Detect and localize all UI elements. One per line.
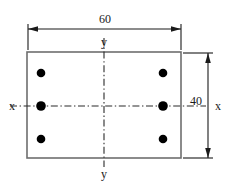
axis-label-y-top: y (101, 35, 107, 49)
arrowhead-left-icon (28, 26, 38, 32)
axis-label-x-left: x (9, 99, 15, 113)
bar-bot-left (37, 135, 46, 144)
bar-mid-right (158, 101, 168, 111)
diagram-canvas: 60 40 y y x x (0, 0, 230, 188)
bar-top-left (37, 69, 46, 78)
axis-label-x-right: x (215, 99, 221, 113)
bar-top-right (159, 69, 168, 78)
axis-label-y-bottom: y (101, 167, 107, 181)
arrowhead-right-icon (171, 26, 181, 32)
width-dimension-label: 60 (99, 12, 111, 26)
section-diagram: 60 40 y y x x (0, 0, 230, 188)
arrowhead-down-icon (205, 148, 211, 158)
bar-mid-left (36, 101, 46, 111)
arrowhead-up-icon (205, 53, 211, 63)
bar-bot-right (159, 135, 168, 144)
